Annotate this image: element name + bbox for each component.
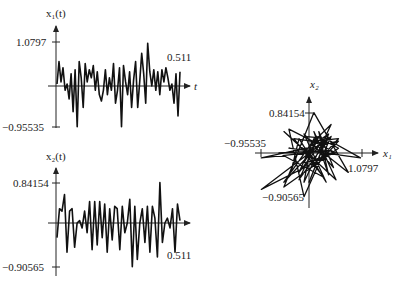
x2-ymax-label: 0.84154 — [13, 177, 49, 189]
phase-xmax-label: 1.0797 — [348, 162, 379, 174]
phase-ymin-label: −0.90565 — [262, 191, 304, 203]
x1-ymin-label: −0.95535 — [2, 121, 44, 133]
x1-ylabel: x₁(t) — [46, 7, 66, 20]
x1-t-label: t — [194, 80, 198, 92]
x1-ymax-label: 1.0797 — [16, 36, 47, 48]
x2-signal — [57, 183, 180, 267]
phase-ylabel: x₂ — [309, 78, 319, 90]
x1-signal — [57, 43, 180, 127]
x2-end-label: 0.511 — [167, 249, 191, 261]
x1-end-label: 0.511 — [167, 51, 191, 63]
x2-ymin-label: −0.90565 — [2, 261, 44, 273]
phase-trajectory — [261, 113, 360, 197]
plot-x1: x₁(t) 1.0797 −0.95535 t 0.511 — [2, 7, 198, 133]
phase-ymax-label: 0.84154 — [269, 107, 305, 119]
x2-ylabel: x₂(t) — [46, 150, 66, 163]
plot-x2: x₂(t) 0.84154 −0.90565 0.511 — [2, 150, 191, 276]
phase-xlabel: x₁ — [382, 147, 392, 159]
figure: x₁(t) 1.0797 −0.95535 t 0.511 x₂(t) 0.84… — [0, 0, 395, 287]
phase-xmin-label: −0.95535 — [224, 137, 266, 149]
phase-portrait: x₂ x₁ 0.84154 −0.95535 1.0797 −0.90565 — [224, 78, 392, 208]
